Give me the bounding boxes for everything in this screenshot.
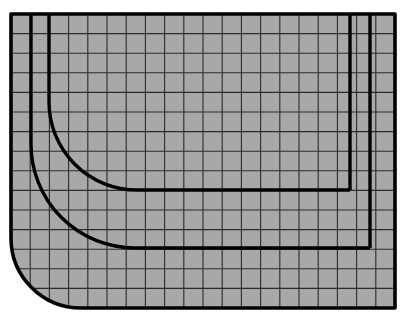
mesh-vertical-lines — [11, 14, 395, 308]
mesh-grid — [11, 14, 395, 308]
mesh-diagram — [0, 0, 406, 320]
figure-root — [0, 0, 406, 320]
